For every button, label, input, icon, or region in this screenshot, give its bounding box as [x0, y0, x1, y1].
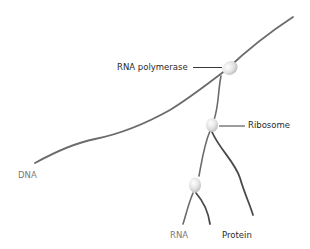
- ribosome-blob-1: [206, 118, 218, 132]
- protein-strand-1: [212, 132, 253, 215]
- rna-tail: [183, 193, 193, 224]
- rna-polymerase-label: RNA polymerase: [117, 63, 188, 72]
- dna-strand: [35, 17, 293, 163]
- ribosome-label: Ribosome: [248, 121, 290, 130]
- protein-strand-2: [196, 193, 210, 224]
- dna-label: DNA: [18, 171, 37, 180]
- rna-label: RNA: [170, 231, 188, 240]
- ribosome-blob-2: [189, 178, 201, 193]
- mrna-strand-lower: [199, 131, 210, 176]
- transcription-translation-diagram: RNA polymerase Ribosome DNA RNA Protein: [0, 0, 310, 249]
- mrna-strand: [214, 76, 221, 120]
- protein-label: Protein: [222, 231, 252, 240]
- rna-polymerase-blob: [220, 58, 240, 77]
